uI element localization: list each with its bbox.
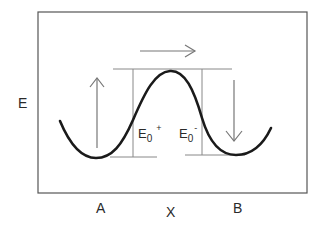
reverse-barrier-label: E0- <box>179 123 197 144</box>
well-a-label: A <box>96 200 106 216</box>
energy-diagram: E0+ E0- E X A B <box>0 0 323 228</box>
x-axis-label: X <box>166 204 176 220</box>
well-b-label: B <box>233 200 242 216</box>
arrow-up-icon <box>90 78 104 148</box>
forward-barrier-label: E0+ <box>138 123 162 144</box>
arrow-right-icon <box>140 45 195 57</box>
arrow-down-icon <box>226 80 242 141</box>
plot-frame <box>38 12 307 193</box>
y-axis-label: E <box>18 95 27 111</box>
